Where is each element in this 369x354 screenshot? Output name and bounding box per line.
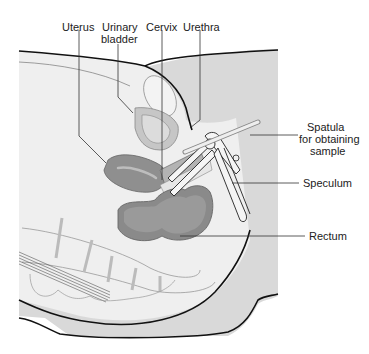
label-urethra: Urethra bbox=[183, 21, 220, 33]
label-cervix: Cervix bbox=[146, 21, 177, 33]
label-uterus: Uterus bbox=[62, 21, 94, 33]
label-urinary-bladder-line1: Urinary bbox=[102, 21, 137, 33]
label-spatula-line3: sample bbox=[310, 145, 345, 157]
label-speculum: Speculum bbox=[303, 177, 352, 189]
label-rectum: Rectum bbox=[309, 230, 347, 242]
label-spatula-line2: for obtaining bbox=[299, 133, 360, 145]
pelvic-exam-diagram: Uterus Urinary bladder Cervix Urethra Sp… bbox=[0, 0, 369, 354]
label-urinary-bladder-line2: bladder bbox=[101, 33, 138, 45]
label-spatula-line1: Spatula bbox=[307, 121, 344, 133]
